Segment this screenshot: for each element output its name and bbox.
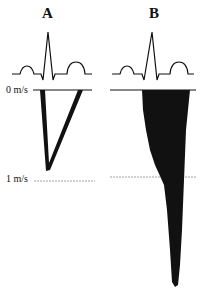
- doppler-diagram: [0, 0, 202, 297]
- ecg-trace-a: [12, 32, 92, 80]
- doppler-envelope-a: [40, 90, 83, 171]
- doppler-envelope-b: [142, 90, 190, 287]
- ecg-trace-b: [112, 32, 194, 80]
